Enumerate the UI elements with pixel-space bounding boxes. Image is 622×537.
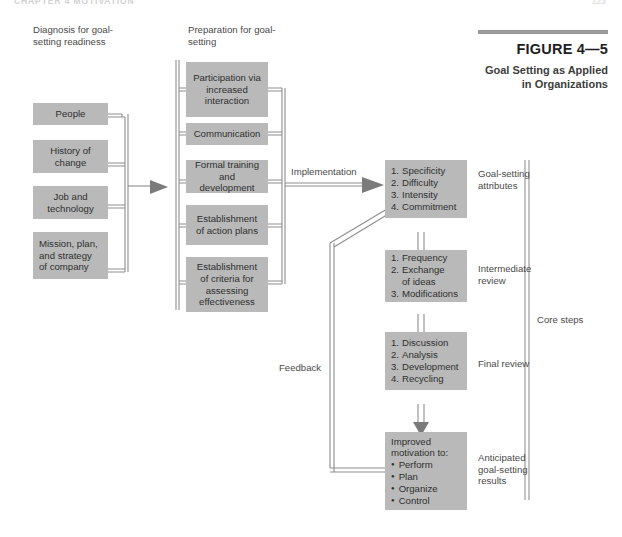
diagnosis-box[interactable]: Job and technology (33, 186, 108, 219)
core-steps-label: Core steps (537, 314, 583, 326)
core-step-list: 1.Frequency 2.Exchange of ideas 3.Modifi… (391, 252, 458, 299)
preparation-box[interactable]: Establishment of criteria for assessing … (186, 257, 268, 312)
core-step-list: 1.Specificity 2.Difficulty 3.Intensity 4… (391, 165, 456, 212)
preparation-box[interactable]: Formal training and development (186, 160, 268, 193)
core-step-box[interactable]: 1.Discussion 2.Analysis 3.Development 4.… (385, 332, 467, 390)
diagnosis-box[interactable]: Mission, plan, and strategy of company (33, 232, 108, 279)
preparation-box-label: Establishment of action plans (192, 213, 262, 237)
core-step-side-label: Anticipated goal-setting results (478, 452, 540, 487)
core-step-list: 1.Discussion 2.Analysis 3.Development 4.… (391, 337, 459, 384)
diagnosis-box-label: Mission, plan, and strategy of company (39, 238, 102, 273)
diagnosis-box-label: Job and technology (39, 191, 102, 215)
core-step-box[interactable]: Improved motivation to: Perform Plan Org… (385, 432, 467, 510)
diagnosis-box-label: History of change (39, 145, 102, 169)
figure-page: CHAPTER 4 MOTIVATION 123 FIGURE 4—5 Goal… (0, 0, 622, 537)
diagnosis-box[interactable]: People (33, 103, 108, 125)
core-step-side-label: Intermediate review (478, 263, 540, 286)
core-step-side-label: Final review (478, 358, 540, 370)
preparation-box[interactable]: Communication (186, 123, 268, 145)
preparation-box-label: Formal training and development (192, 159, 262, 194)
core-step-list: Perform Plan Organize Control (391, 459, 438, 506)
preparation-box-label: Participation via increased interaction (192, 72, 262, 107)
core-step-box[interactable]: 1.Specificity 2.Difficulty 3.Intensity 4… (385, 160, 467, 218)
feedback-label: Feedback (279, 362, 321, 374)
diagnosis-box[interactable]: History of change (33, 140, 108, 173)
core-step-heading: Improved motivation to: (391, 436, 461, 460)
core-step-side-label: Goal-setting attributes (478, 168, 538, 191)
preparation-box-label: Communication (194, 128, 261, 140)
preparation-box[interactable]: Participation via increased interaction (186, 62, 268, 117)
diagnosis-box-label: People (56, 108, 86, 120)
preparation-box[interactable]: Establishment of action plans (186, 205, 268, 245)
core-step-box[interactable]: 1.Frequency 2.Exchange of ideas 3.Modifi… (385, 250, 467, 302)
implementation-label: Implementation (291, 166, 357, 178)
preparation-box-label: Establishment of criteria for assessing … (192, 261, 262, 308)
